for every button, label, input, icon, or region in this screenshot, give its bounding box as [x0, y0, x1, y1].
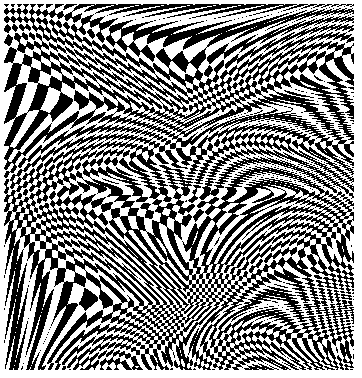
- artwork-frame: Op-art warped diamond checkerboard: [0, 0, 362, 378]
- op-art-checkerboard: [4, 4, 354, 370]
